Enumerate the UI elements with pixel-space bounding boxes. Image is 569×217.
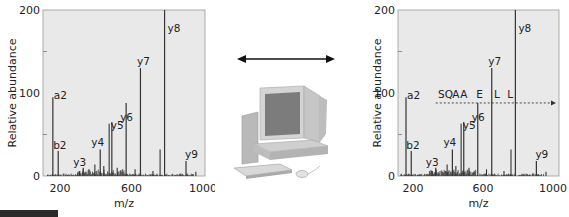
y-tick-label: 200: [19, 4, 40, 17]
x-tick-label: 200: [50, 182, 71, 195]
left-spectrum-chart: a2b2y3y4y5y6y7y8y901002002006001000m/zRe…: [0, 0, 215, 215]
peak-label-y9: y9: [535, 148, 548, 160]
peak-label-y6: y6: [472, 111, 485, 123]
sequence-residue: E: [476, 88, 483, 100]
peak-label-y8: y8: [518, 22, 531, 34]
peak-label-b2: b2: [406, 139, 419, 151]
x-tick-label: 600: [121, 182, 142, 195]
computer-icon: [232, 84, 337, 188]
x-axis-label: m/z: [468, 197, 488, 210]
sequence-residue: A: [452, 88, 460, 100]
x-tick-label: 600: [473, 182, 494, 195]
y-axis-label: Relative abundance: [371, 38, 384, 147]
right-spectrum-chart: a2b2y3y4y5y6y7y8y901002002006001000m/zRe…: [355, 0, 569, 215]
peak-label-y7: y7: [137, 55, 150, 67]
peak-label-y4: y4: [91, 136, 104, 148]
peak-label-y8: y8: [168, 22, 181, 34]
peak-label-a2: a2: [54, 89, 67, 101]
peak-label-a2: a2: [407, 89, 420, 101]
peak-label-y4: y4: [443, 136, 456, 148]
sequence-residue: L: [507, 88, 513, 100]
y-tick-label: 100: [19, 87, 40, 100]
sequence-residue: A: [460, 88, 468, 100]
peak-label-y3: y3: [426, 156, 439, 168]
y-tick-label: 0: [33, 170, 40, 183]
x-tick-label: 1000: [539, 182, 567, 195]
x-tick-label: 1000: [189, 182, 215, 195]
y-axis-label: Relative abundance: [6, 38, 19, 147]
decorative-black-bar: [0, 210, 58, 217]
y-tick-label: 200: [374, 4, 395, 17]
sequence-residue: L: [494, 88, 500, 100]
plot-area: [43, 10, 205, 176]
peak-label-y9: y9: [185, 148, 198, 160]
peak-label-y3: y3: [73, 156, 86, 168]
right-spectrum-svg: a2b2y3y4y5y6y7y8y901002002006001000m/zRe…: [355, 0, 569, 215]
y-tick-label: 0: [388, 170, 395, 183]
double-arrow-icon: [237, 50, 335, 69]
peak-label-y6: y6: [120, 111, 133, 123]
peak-label-y7: y7: [488, 55, 501, 67]
peak-label-b2: b2: [53, 139, 66, 151]
x-tick-label: 200: [403, 182, 424, 195]
left-spectrum-svg: a2b2y3y4y5y6y7y8y901002002006001000m/zRe…: [0, 0, 215, 215]
x-axis-label: m/z: [114, 197, 134, 210]
